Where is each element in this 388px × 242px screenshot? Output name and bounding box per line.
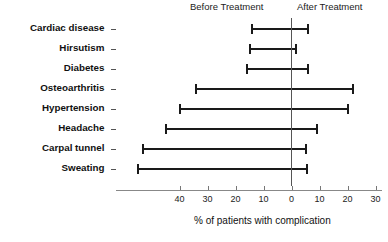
category-tick <box>111 149 116 150</box>
range-bar-cap-before <box>142 144 144 154</box>
range-bar-cap-after <box>307 24 309 34</box>
x-axis-tick <box>376 186 377 190</box>
range-bar-cap-before <box>165 124 167 134</box>
category-tick <box>111 169 116 170</box>
category-label: Hypertension <box>0 102 105 113</box>
range-bar <box>143 148 305 150</box>
x-axis-tick <box>180 186 181 190</box>
category-label: Carpal tunnel <box>0 142 105 153</box>
range-bar-cap-before <box>251 24 253 34</box>
x-axis-tick-label: 10 <box>252 194 276 204</box>
range-bar <box>196 88 353 90</box>
range-bar <box>247 68 309 70</box>
category-tick <box>111 29 116 30</box>
range-bar-cap-before <box>179 104 181 114</box>
x-axis-tick-label: 20 <box>336 194 360 204</box>
x-axis-tick <box>292 186 293 190</box>
legend-label-after-treatment: After Treatment <box>297 1 362 12</box>
range-bar-cap-after <box>347 104 349 114</box>
range-bar-cap-after <box>307 64 309 74</box>
x-axis-title: % of patients with complication <box>194 215 331 226</box>
x-axis-tick <box>236 186 237 190</box>
x-axis-line <box>116 190 382 191</box>
x-axis-tick <box>208 186 209 190</box>
category-label: Headache <box>0 122 105 133</box>
range-bar-cap-after <box>316 124 318 134</box>
category-label: Hirsutism <box>0 42 105 53</box>
category-tick <box>111 89 116 90</box>
x-axis-tick-label: 20 <box>224 194 248 204</box>
x-axis-tick <box>320 186 321 190</box>
category-label: Diabetes <box>0 62 105 73</box>
range-bar <box>166 128 317 130</box>
category-label: Sweating <box>0 162 105 173</box>
legend-label-before-treatment: Before Treatment <box>190 1 263 12</box>
range-bar-cap-before <box>246 64 248 74</box>
range-bar-cap-before <box>249 44 251 54</box>
x-axis-tick-label: 30 <box>364 194 388 204</box>
range-bar <box>138 168 307 170</box>
category-tick <box>111 69 116 70</box>
x-axis-tick <box>264 186 265 190</box>
category-label: Cardiac disease <box>0 22 105 33</box>
range-bar-cap-before <box>137 164 139 174</box>
x-axis-tick-label: 10 <box>308 194 332 204</box>
x-axis-tick <box>348 186 349 190</box>
range-bar <box>250 48 296 50</box>
range-bar-cap-before <box>195 84 197 94</box>
category-label: Osteoarthritis <box>0 82 105 93</box>
range-bar <box>180 108 348 110</box>
range-bar-cap-after <box>305 144 307 154</box>
range-bar-cap-after <box>295 44 297 54</box>
x-axis-tick-label: 30 <box>196 194 220 204</box>
x-axis-tick-label: 0 <box>280 194 304 204</box>
category-tick <box>111 129 116 130</box>
category-tick <box>111 109 116 110</box>
range-bar-cap-after <box>352 84 354 94</box>
category-tick <box>111 49 116 50</box>
zero-axis-line <box>291 18 292 186</box>
range-bar <box>252 28 308 30</box>
range-bar-cap-after <box>306 164 308 174</box>
range-bar-chart: Before Treatment After Treatment Cardiac… <box>0 0 388 242</box>
x-axis-tick-label: 40 <box>168 194 192 204</box>
